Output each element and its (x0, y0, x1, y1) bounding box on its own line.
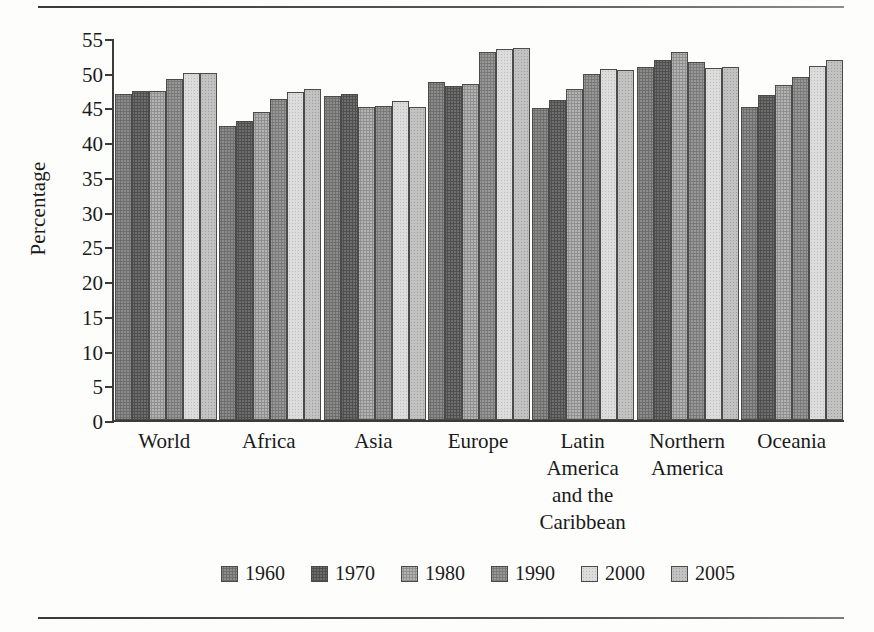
y-tick-mark (105, 386, 114, 388)
x-axis-category-label: Oceania (739, 428, 844, 548)
y-tick-label: 50 (45, 64, 114, 85)
y-tick-label: 40 (45, 134, 114, 155)
plot-area: 0510152025303540455055 (112, 40, 844, 422)
legend-item[interactable]: 2005 (671, 562, 735, 585)
bottom-rule (38, 617, 844, 619)
legend-swatch-icon (671, 566, 688, 582)
bar (775, 85, 792, 420)
y-tick-mark (105, 39, 114, 41)
figure: Percentage 0510152025303540455055 WorldA… (0, 0, 874, 632)
y-tick-mark (105, 178, 114, 180)
bar (132, 91, 149, 420)
x-label-line: Oceania (741, 428, 842, 455)
bar (549, 100, 566, 420)
bar-set (114, 40, 218, 420)
bar (270, 99, 287, 420)
bar (688, 62, 705, 420)
bar-group (531, 40, 635, 420)
bar-groups (114, 40, 844, 420)
bar (637, 67, 654, 420)
x-label-line: Africa (219, 428, 320, 455)
bar-set (427, 40, 531, 420)
bar (671, 52, 688, 420)
bar (375, 106, 392, 420)
y-tick-mark (105, 74, 114, 76)
bar (149, 91, 166, 420)
y-tick-mark (105, 108, 114, 110)
bar (741, 107, 758, 420)
legend-item[interactable]: 1980 (401, 562, 465, 585)
legend-swatch-icon (401, 566, 418, 582)
y-tick-mark (105, 352, 114, 354)
bar (304, 89, 321, 420)
y-tick-mark (105, 421, 114, 423)
y-tick-label: 20 (45, 273, 114, 294)
bar (758, 95, 775, 420)
legend-item[interactable]: 1970 (311, 562, 375, 585)
bar (341, 94, 358, 420)
y-tick-label: 35 (45, 168, 114, 189)
legend-label: 1960 (245, 562, 285, 585)
bar-group (323, 40, 427, 420)
bar-set (740, 40, 844, 420)
y-tick-mark (105, 143, 114, 145)
legend-item[interactable]: 1960 (221, 562, 285, 585)
x-label-line: and the (532, 482, 633, 509)
bar (236, 121, 253, 420)
y-tick-label: 10 (45, 342, 114, 363)
x-label-line: Latin (532, 428, 633, 455)
x-label-line: World (114, 428, 215, 455)
bar (654, 60, 671, 420)
y-tick-mark (105, 247, 114, 249)
bar (219, 126, 236, 420)
y-tick-label: 15 (45, 307, 114, 328)
bar (617, 70, 634, 420)
bar (287, 92, 304, 420)
x-axis-category-label: Europe (426, 428, 531, 548)
y-tick-mark (105, 317, 114, 319)
y-tick-label: 30 (45, 203, 114, 224)
legend-label: 2005 (695, 562, 735, 585)
bar (166, 79, 183, 420)
legend-swatch-icon (491, 566, 508, 582)
bar (705, 68, 722, 420)
bar (566, 89, 583, 420)
bar (722, 67, 739, 420)
bar-group (635, 40, 739, 420)
bar (513, 48, 530, 420)
legend-label: 1980 (425, 562, 465, 585)
bar (583, 74, 600, 420)
x-label-line: Europe (428, 428, 529, 455)
bar (445, 86, 462, 420)
x-axis-category-label: Asia (321, 428, 426, 548)
bar (358, 107, 375, 420)
legend-swatch-icon (581, 566, 598, 582)
bar-set (323, 40, 427, 420)
bar (792, 77, 809, 420)
x-label-line: Caribbean (532, 509, 633, 536)
x-axis-category-label: NorthernAmerica (635, 428, 740, 548)
bar-group (218, 40, 322, 420)
bar (826, 60, 843, 420)
bar-set (531, 40, 635, 420)
legend-label: 1990 (515, 562, 555, 585)
bar (115, 94, 132, 420)
legend-item[interactable]: 1990 (491, 562, 555, 585)
x-label-line: Asia (323, 428, 424, 455)
bar (532, 108, 549, 420)
x-axis-labels: WorldAfricaAsiaEuropeLatinAmericaand the… (112, 428, 844, 548)
x-label-line: Northern (637, 428, 738, 455)
bar (324, 96, 341, 420)
bar (200, 73, 217, 420)
x-axis-category-label: Africa (217, 428, 322, 548)
bar-set (218, 40, 322, 420)
bar-set (635, 40, 739, 420)
bar (183, 73, 200, 420)
legend-swatch-icon (221, 566, 238, 582)
top-rule (38, 6, 844, 8)
bar-group (427, 40, 531, 420)
y-tick-label: 45 (45, 99, 114, 120)
y-tick-label: 25 (45, 238, 114, 259)
legend-label: 1970 (335, 562, 375, 585)
legend-item[interactable]: 2000 (581, 562, 645, 585)
